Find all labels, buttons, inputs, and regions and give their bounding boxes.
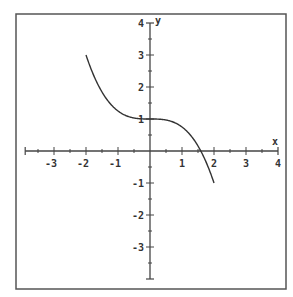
x-tick-label: 4 [275,158,281,169]
y-tick-label: -2 [132,210,144,221]
y-tick-label: 3 [138,50,144,61]
x-tick-label: 3 [243,158,249,169]
x-tick-label: 2 [211,158,217,169]
y-tick-label: 4 [138,18,144,29]
y-axis-label: y [155,15,161,26]
y-tick-label: -1 [132,178,144,189]
function-plot: -3-2-112344321-1-2-3 x y [0,0,293,297]
x-tick-label: -2 [77,158,89,169]
y-tick-label: 2 [138,82,144,93]
x-tick-label: 1 [179,158,185,169]
x-axis-label: x [272,136,278,147]
x-tick-label: -3 [45,158,57,169]
y-tick-label: -3 [132,242,144,253]
x-tick-label: -1 [109,158,121,169]
